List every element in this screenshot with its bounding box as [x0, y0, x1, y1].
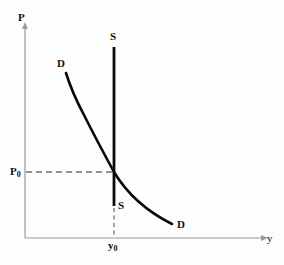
equilibrium-price-label: P0: [10, 166, 21, 177]
equilibrium-quantity-label: y0: [108, 240, 118, 251]
equilibrium-price-subscript: 0: [17, 170, 21, 179]
x-axis-label: y: [267, 233, 273, 244]
supply-curve-label-top: S: [110, 31, 116, 42]
equilibrium-quantity-symbol: y: [108, 239, 114, 251]
equilibrium-price-symbol: P: [10, 165, 17, 177]
demand-curve-label-bottom: D: [177, 219, 185, 230]
y-axis-arrowhead: [22, 22, 28, 29]
demand-curve-label-top: D: [57, 58, 65, 69]
chart-canvas: [0, 0, 284, 265]
supply-curve-label-bottom: S: [118, 200, 124, 211]
y-axis-label: P: [18, 12, 25, 23]
equilibrium-quantity-subscript: 0: [114, 244, 118, 253]
supply-demand-figure: P y D D S S P0 y0: [0, 0, 284, 265]
